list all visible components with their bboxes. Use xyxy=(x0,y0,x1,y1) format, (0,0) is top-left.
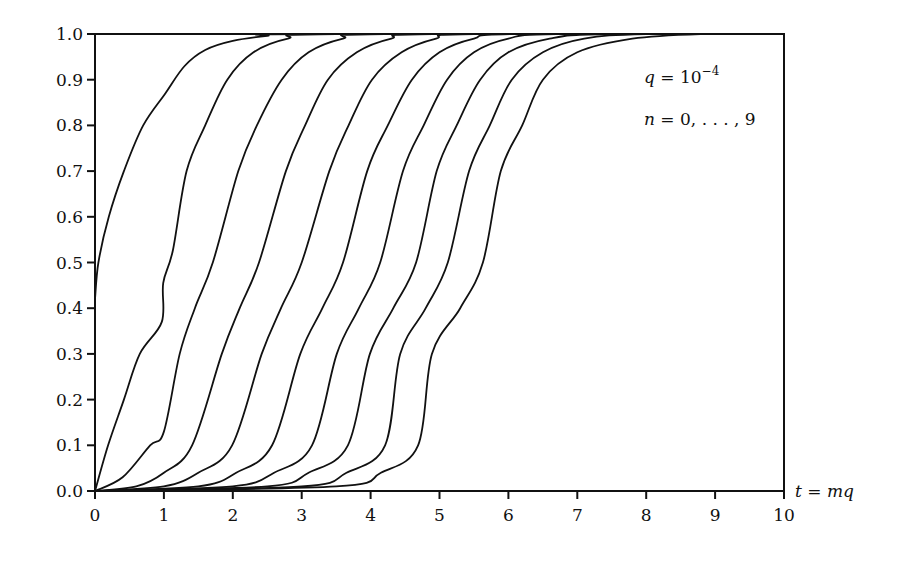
curve-n-9 xyxy=(95,34,784,491)
y-axis-ticks: 0.00.10.20.30.40.50.60.70.80.91.0 xyxy=(56,24,95,501)
annotation-n: n = 0, . . . , 9 xyxy=(644,109,756,129)
annotation-q-exponent: −4 xyxy=(702,64,720,78)
curve-n-8 xyxy=(95,34,784,491)
x-tick-label: 1 xyxy=(158,505,169,525)
x-axis-ticks: 012345678910 xyxy=(90,491,795,525)
curve-n-1 xyxy=(95,34,784,491)
x-tick-label: 9 xyxy=(710,505,721,525)
x-tick-label: 2 xyxy=(227,505,238,525)
plot-frame xyxy=(95,34,784,491)
curve-n-6 xyxy=(95,34,784,491)
axes xyxy=(95,34,784,491)
chart: 0.00.10.20.30.40.50.60.70.80.91.0 012345… xyxy=(0,0,902,563)
y-tick-label: 0.8 xyxy=(56,115,83,135)
svg-text:n = 0, . . . , 9: n = 0, . . . , 9 xyxy=(644,109,756,129)
x-axis-label: t = mq xyxy=(795,481,854,501)
annotation-q: q = 10−4 xyxy=(644,64,720,87)
x-tick-label: 5 xyxy=(434,505,445,525)
x-tick-label: 8 xyxy=(641,505,652,525)
x-tick-label: 10 xyxy=(773,505,795,525)
curve-group xyxy=(95,34,784,491)
y-tick-label: 1.0 xyxy=(56,24,83,44)
curve-n-2 xyxy=(95,34,784,491)
x-tick-label: 3 xyxy=(296,505,307,525)
annotation-q-var: q xyxy=(644,67,655,87)
curve-n-3 xyxy=(95,34,784,491)
y-tick-label: 0.3 xyxy=(56,344,83,364)
annotation-n-range: = 0, . . . , 9 xyxy=(655,109,756,129)
curve-n-7 xyxy=(95,34,784,491)
annotation-q-eq: = 10 xyxy=(655,67,702,87)
x-tick-label: 6 xyxy=(503,505,514,525)
y-tick-label: 0.7 xyxy=(56,161,83,181)
y-tick-label: 0.6 xyxy=(56,207,83,227)
svg-text:q = 10−4: q = 10−4 xyxy=(644,64,720,87)
curve-n-5 xyxy=(95,34,784,491)
curve-n-4 xyxy=(95,34,784,491)
y-tick-label: 0.4 xyxy=(56,298,83,318)
y-tick-label: 0.0 xyxy=(56,481,83,501)
x-tick-label: 0 xyxy=(90,505,101,525)
y-tick-label: 0.2 xyxy=(56,390,83,410)
y-tick-label: 0.5 xyxy=(56,253,83,273)
x-tick-label: 4 xyxy=(365,505,376,525)
annotation-n-var: n xyxy=(644,109,655,129)
y-tick-label: 0.1 xyxy=(56,435,83,455)
y-tick-label: 0.9 xyxy=(56,70,83,90)
x-tick-label: 7 xyxy=(572,505,583,525)
